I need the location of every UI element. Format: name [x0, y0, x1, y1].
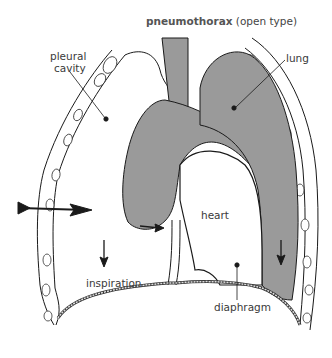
- label-diaphragm: diaphragm: [214, 301, 271, 313]
- air-inflow-arrow: [18, 202, 92, 216]
- label-pleural-cavity: pleural cavity: [50, 50, 86, 74]
- pleural-cavity-line2: cavity: [50, 62, 86, 74]
- label-lung: lung: [286, 52, 309, 64]
- label-heart: heart: [201, 209, 229, 221]
- left-down-arrow: [100, 240, 108, 267]
- label-inspiration: inspiration: [86, 277, 142, 289]
- trachea: [162, 38, 188, 110]
- pleural-cavity-line1: pleural: [50, 50, 86, 62]
- mediastinum: [168, 220, 180, 285]
